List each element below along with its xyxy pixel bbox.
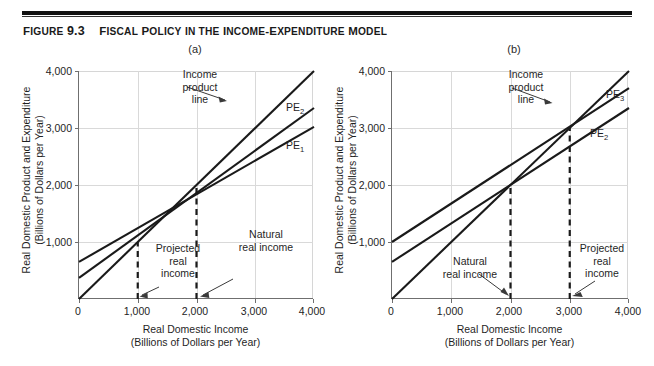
figure-root: FIGURE 9.3 FISCAL POLICY IN THE INCOME-E…: [0, 0, 654, 366]
annotation-natural-real-income-a: Natural real income: [224, 228, 308, 253]
panel-a-xtick-3000: 3,000: [232, 305, 276, 317]
curve-label-pe3-b: PE3: [606, 88, 624, 103]
panel-a-xtick-1000: 1,000: [115, 305, 159, 317]
ipl-line2-b: product: [486, 81, 566, 94]
nat-line2-b: real income: [428, 268, 512, 281]
nat-line1-b: Natural: [428, 255, 512, 268]
panel-a-ytick-1000: 1,000: [26, 236, 72, 248]
proj-line3: income: [140, 267, 216, 280]
panel-b-label: (b): [484, 43, 544, 55]
panel-b-ytick-4000: 4,000: [339, 65, 385, 77]
ipl-line3-b: line: [486, 93, 566, 106]
panel-b-ytick-2000: 2,000: [339, 179, 385, 191]
annotation-projected-real-income-a: Projected real income: [140, 242, 216, 280]
panel-a-ytick-4000: 4,000: [26, 65, 72, 77]
ipl-line2: product: [160, 81, 240, 94]
arrow-projected-real-income-a: [140, 287, 160, 299]
xtick-mark-1000-b: [451, 299, 452, 303]
x-axis-title-line1: Real Domestic Income: [78, 323, 313, 336]
arrow-natural-real-income-a: [200, 279, 233, 298]
annotation-income-product-line-b: Income product line: [486, 68, 566, 106]
panel-a-xtick-0: 0: [56, 305, 100, 317]
ipl-line1: Income: [160, 68, 240, 81]
nat-line2: real income: [224, 241, 308, 254]
panel-a-label: (a): [165, 43, 225, 55]
xtick-mark-2000: [197, 299, 198, 303]
xtick-mark-2000-b: [511, 299, 512, 303]
proj-line1: Projected: [140, 242, 216, 255]
x-axis-title-line1-b: Real Domestic Income: [391, 323, 628, 336]
proj-line2-b: real: [564, 255, 640, 268]
panel-b-xtick-4000: 4,000: [606, 305, 650, 317]
xtick-mark-1000: [138, 299, 139, 303]
curve-label-pe2-b: PE2: [590, 127, 608, 142]
panel-b-ytick-3000: 3,000: [339, 122, 385, 134]
panel-b-xtick-3000: 3,000: [547, 305, 591, 317]
panel-a-xtick-2000: 2,000: [173, 305, 217, 317]
xtick-mark-4000: [313, 299, 314, 303]
proj-line2: real: [140, 255, 216, 268]
panel-b-xtick-1000: 1,000: [428, 305, 472, 317]
panel-b-x-axis-title: Real Domestic Income (Billions of Dollar…: [391, 323, 628, 349]
panel-a-ytick-2000: 2,000: [26, 179, 72, 191]
xtick-mark-4000-b: [628, 299, 629, 303]
arrow-projected-real-income-b: [572, 281, 595, 297]
x-axis-title-line2: (Billions of Dollars per Year): [78, 336, 313, 349]
nat-line1: Natural: [224, 228, 308, 241]
panel-b-xtick-0: 0: [369, 305, 413, 317]
panel-a: (a) Real Domestic Product and Expenditur…: [0, 0, 330, 366]
panel-b-xtick-2000: 2,000: [487, 305, 531, 317]
annotation-natural-real-income-b: Natural real income: [428, 255, 512, 280]
panel-b: (b) Real Domestic Product and Expenditur…: [324, 0, 654, 366]
panel-a-ytick-3000: 3,000: [26, 122, 72, 134]
x-axis-title-line2-b: (Billions of Dollars per Year): [391, 336, 628, 349]
panel-a-x-axis-title: Real Domestic Income (Billions of Dollar…: [78, 323, 313, 349]
series-pe3-b: [392, 88, 629, 242]
xtick-mark-3000: [255, 299, 256, 303]
curve-label-pe2-a: PE2: [286, 101, 304, 116]
ipl-line1-b: Income: [486, 68, 566, 81]
proj-line3-b: income: [564, 267, 640, 280]
ipl-line3: line: [160, 93, 240, 106]
annotation-projected-real-income-b: Projected real income: [564, 242, 640, 280]
curve-label-pe1-a: PE1: [286, 139, 304, 154]
annotation-income-product-line-a: Income product line: [160, 68, 240, 106]
proj-line1-b: Projected: [564, 242, 640, 255]
panel-b-ytick-1000: 1,000: [339, 236, 385, 248]
xtick-mark-3000-b: [570, 299, 571, 303]
